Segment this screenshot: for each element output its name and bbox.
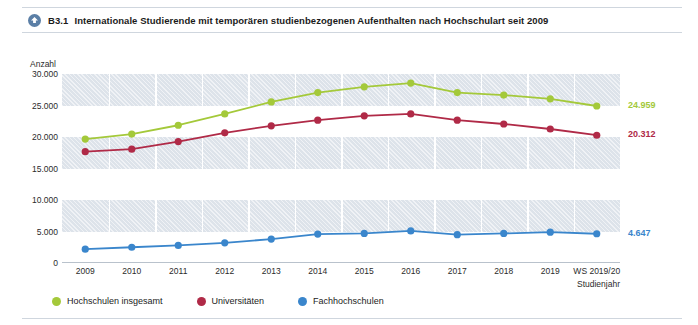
chart-area: Anzahl 05.00010.00015.00020.00025.00030.… — [0, 46, 698, 276]
data-point — [593, 102, 600, 109]
figure-title-bar: B3.1 Internationale Studierende mit temp… — [22, 7, 682, 33]
y-tick-label: 25.000 — [32, 101, 58, 111]
legend-color-dot — [197, 297, 206, 306]
data-point — [175, 122, 182, 129]
legend-color-dot — [298, 297, 307, 306]
data-point — [454, 117, 461, 124]
page-title: Internationale Studierende mit temporäre… — [74, 15, 548, 26]
data-point — [268, 235, 275, 242]
data-point — [407, 227, 414, 234]
data-point — [314, 230, 321, 237]
series-end-label: 24.959 — [628, 100, 656, 110]
download-circle-icon — [28, 14, 41, 27]
series-end-label: 20.312 — [628, 129, 656, 139]
x-tick-label: 2016 — [401, 266, 420, 276]
y-axis-tick-labels: 05.00010.00015.00020.00025.00030.000 — [0, 46, 62, 276]
y-tick-label: 10.000 — [32, 195, 58, 205]
data-point — [82, 246, 89, 253]
x-tick-label: 2014 — [308, 266, 327, 276]
data-point — [407, 79, 414, 86]
data-point — [175, 242, 182, 249]
legend-label: Fachhochschulen — [313, 296, 384, 306]
data-point — [268, 98, 275, 105]
data-point — [221, 110, 228, 117]
x-tick-label: 2011 — [169, 266, 187, 276]
data-point — [407, 110, 414, 117]
data-point — [547, 125, 554, 132]
y-tick-label: 20.000 — [32, 132, 58, 142]
x-axis-title: Studienjahr — [0, 279, 620, 289]
data-point — [361, 230, 368, 237]
data-point — [593, 230, 600, 237]
data-point — [128, 130, 135, 137]
figure-bottom-rule — [22, 318, 682, 319]
legend-item[interactable]: Universitäten — [197, 296, 265, 306]
x-tick-label: 2018 — [494, 266, 513, 276]
y-tick-label: 5.000 — [37, 227, 58, 237]
legend-color-dot — [52, 297, 61, 306]
data-point — [82, 135, 89, 142]
data-point — [314, 89, 321, 96]
data-point — [500, 230, 507, 237]
y-tick-label: 30.000 — [32, 69, 58, 79]
x-tick-label: WS 2019/20 — [573, 266, 620, 276]
data-point — [593, 132, 600, 139]
data-point — [500, 120, 507, 127]
x-tick-label: 2017 — [448, 266, 467, 276]
series-line — [85, 83, 597, 139]
data-point — [221, 239, 228, 246]
plot-canvas — [62, 68, 620, 263]
series-line — [85, 231, 597, 249]
x-tick-label: 2010 — [122, 266, 141, 276]
y-tick-label: 0 — [53, 258, 58, 268]
data-point — [268, 122, 275, 129]
x-tick-label: 2019 — [541, 266, 560, 276]
series-lines — [62, 68, 620, 263]
data-point — [128, 146, 135, 153]
data-point — [361, 112, 368, 119]
x-axis-tick-labels: 2009201020112012201320142015201620172018… — [62, 266, 620, 280]
data-point — [547, 95, 554, 102]
y-tick-label: 15.000 — [32, 164, 58, 174]
x-tick-label: 2009 — [76, 266, 95, 276]
data-point — [314, 117, 321, 124]
data-point — [82, 148, 89, 155]
series-end-label: 4.647 — [628, 228, 651, 238]
legend-item[interactable]: Fachhochschulen — [298, 296, 384, 306]
data-point — [221, 129, 228, 136]
x-tick-label: 2015 — [355, 266, 374, 276]
data-point — [454, 231, 461, 238]
figure-number: B3.1 — [48, 15, 68, 26]
x-tick-label: 2013 — [262, 266, 281, 276]
series-line — [85, 114, 597, 152]
data-point — [361, 83, 368, 90]
figure-container: B3.1 Internationale Studierende mit temp… — [0, 0, 698, 325]
legend-item[interactable]: Hochschulen insgesamt — [52, 296, 163, 306]
data-point — [500, 91, 507, 98]
chart-legend: Hochschulen insgesamtUniversitätenFachho… — [52, 296, 384, 306]
data-point — [454, 89, 461, 96]
data-point — [128, 244, 135, 251]
data-point — [175, 138, 182, 145]
data-point — [547, 229, 554, 236]
x-tick-label: 2012 — [215, 266, 234, 276]
legend-label: Universitäten — [212, 296, 265, 306]
legend-label: Hochschulen insgesamt — [67, 296, 163, 306]
